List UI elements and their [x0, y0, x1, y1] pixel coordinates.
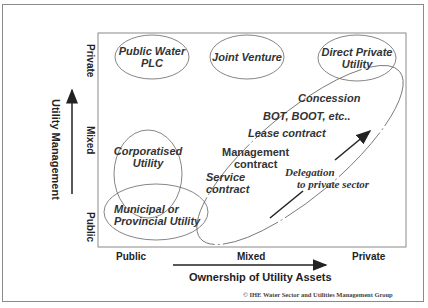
- delegation-arrow-upper: [335, 131, 370, 160]
- node-line: Provincial Utility: [114, 215, 200, 227]
- item-service-contract: Service contract: [206, 171, 249, 195]
- node-public-water-plc: Public Water PLC: [115, 45, 189, 69]
- node-direct-private: Direct Private Utility: [316, 46, 398, 70]
- item-line: contract: [222, 158, 289, 170]
- node-line: Direct Private: [316, 46, 398, 58]
- node-line: Utility: [112, 157, 184, 169]
- node-line: PLC: [115, 57, 189, 69]
- x-tick-public: Public: [116, 251, 146, 262]
- y-axis-title: Utility Management: [50, 99, 62, 200]
- node-corporatised: Corporatised Utility: [112, 145, 184, 169]
- item-bot-boot: BOT, BOOT, etc..: [263, 110, 351, 122]
- ellipse-delegation: [173, 39, 426, 270]
- y-tick-private: Private: [85, 44, 96, 77]
- x-tick-mixed: Mixed: [237, 251, 265, 262]
- node-line: Utility: [316, 58, 398, 70]
- item-line: Management: [222, 146, 289, 158]
- delegation-line: to private sector: [285, 178, 369, 190]
- copyright-text: © IHE Water Sector and Utilities Managem…: [243, 291, 393, 298]
- node-joint-venture: Joint Venture: [210, 51, 284, 63]
- item-line: Service: [206, 171, 249, 183]
- y-tick-mixed: Mixed: [85, 126, 96, 154]
- x-tick-private: Private: [352, 251, 385, 262]
- delegation-label: Delegation to private sector: [285, 166, 369, 190]
- y-tick-public: Public: [85, 212, 96, 242]
- item-concession: Concession: [298, 92, 360, 104]
- node-line: Public Water: [115, 45, 189, 57]
- node-municipal: Municipal or Provincial Utility: [114, 203, 200, 227]
- node-line: Municipal or: [114, 203, 200, 215]
- x-axis-title: Ownership of Utility Assets: [189, 271, 332, 283]
- node-line: Corporatised: [112, 145, 184, 157]
- delegation-arrow-lower: [270, 191, 303, 218]
- item-line: contract: [206, 183, 249, 195]
- delegation-line: Delegation: [285, 166, 369, 178]
- item-lease-contract: Lease contract: [248, 127, 326, 139]
- item-management-contract: Management contract: [222, 146, 289, 170]
